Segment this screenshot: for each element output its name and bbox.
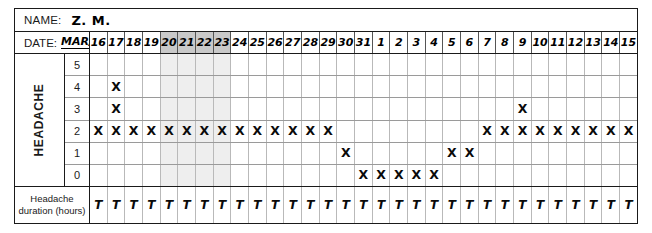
date-header-cell[interactable]: 22	[196, 32, 214, 53]
plot-cell[interactable]	[143, 165, 161, 186]
plot-cell[interactable]	[567, 54, 585, 75]
plot-cell[interactable]	[426, 98, 444, 119]
duration-cell[interactable]: T	[143, 187, 161, 223]
date-header-cell[interactable]: 20	[161, 32, 179, 53]
plot-cell[interactable]	[443, 76, 461, 97]
plot-cell[interactable]	[496, 54, 514, 75]
plot-cell[interactable]	[479, 76, 497, 97]
plot-cell[interactable]	[567, 76, 585, 97]
plot-cell[interactable]	[373, 143, 391, 164]
plot-cell[interactable]	[196, 76, 214, 97]
duration-cell[interactable]: T	[178, 187, 196, 223]
plot-cell[interactable]	[443, 121, 461, 142]
duration-cell[interactable]: T	[585, 187, 603, 223]
plot-cell[interactable]	[161, 143, 179, 164]
plot-cell[interactable]	[337, 98, 355, 119]
plot-cell[interactable]	[602, 165, 620, 186]
duration-cell[interactable]: T	[408, 187, 426, 223]
plot-cell[interactable]	[620, 76, 637, 97]
plot-cell[interactable]	[532, 165, 550, 186]
plot-cell[interactable]	[355, 98, 373, 119]
plot-cell[interactable]	[302, 165, 320, 186]
plot-cell[interactable]: X	[532, 121, 550, 142]
duration-cell[interactable]: T	[214, 187, 232, 223]
plot-cell[interactable]	[585, 76, 603, 97]
plot-cell[interactable]	[178, 76, 196, 97]
date-header-cell[interactable]: 17	[108, 32, 126, 53]
plot-cell[interactable]	[231, 54, 249, 75]
date-header-cell[interactable]: 24	[231, 32, 249, 53]
plot-cell[interactable]	[426, 121, 444, 142]
date-header-cell[interactable]: 21	[178, 32, 196, 53]
plot-cell[interactable]: X	[161, 121, 179, 142]
plot-cell[interactable]	[532, 76, 550, 97]
plot-cell[interactable]	[408, 143, 426, 164]
plot-cell[interactable]	[390, 143, 408, 164]
duration-cell[interactable]: T	[196, 187, 214, 223]
plot-cell[interactable]	[90, 165, 108, 186]
plot-cell[interactable]	[426, 76, 444, 97]
plot-cell[interactable]	[585, 143, 603, 164]
date-header-cell[interactable]: 6	[461, 32, 479, 53]
plot-cell[interactable]	[549, 165, 567, 186]
plot-cell[interactable]	[90, 76, 108, 97]
plot-cell[interactable]	[373, 121, 391, 142]
plot-cell[interactable]	[90, 54, 108, 75]
plot-cell[interactable]	[125, 143, 143, 164]
plot-cell[interactable]	[284, 143, 302, 164]
plot-cell[interactable]: X	[337, 143, 355, 164]
plot-cell[interactable]: X	[108, 98, 126, 119]
plot-cell[interactable]	[90, 143, 108, 164]
plot-cell[interactable]: X	[143, 121, 161, 142]
plot-cell[interactable]	[231, 143, 249, 164]
plot-cell[interactable]: X	[408, 165, 426, 186]
duration-cell[interactable]: T	[479, 187, 497, 223]
plot-cell[interactable]	[496, 143, 514, 164]
plot-cell[interactable]	[214, 165, 232, 186]
date-header-cell[interactable]: 14	[602, 32, 620, 53]
plot-cell[interactable]	[567, 165, 585, 186]
plot-cell[interactable]	[143, 54, 161, 75]
plot-cell[interactable]	[602, 143, 620, 164]
plot-cell[interactable]	[249, 54, 267, 75]
plot-cell[interactable]	[390, 98, 408, 119]
date-header-cell[interactable]: 29	[320, 32, 338, 53]
plot-cell[interactable]	[249, 143, 267, 164]
date-header-cell[interactable]: 28	[302, 32, 320, 53]
date-header-cell[interactable]: 15	[620, 32, 637, 53]
plot-cell[interactable]: X	[214, 121, 232, 142]
plot-cell[interactable]	[461, 98, 479, 119]
plot-cell[interactable]	[549, 143, 567, 164]
plot-cell[interactable]	[620, 165, 637, 186]
date-header-cell[interactable]: 13	[585, 32, 603, 53]
date-header-cell[interactable]: 31	[355, 32, 373, 53]
date-header-cell[interactable]: 23	[214, 32, 232, 53]
plot-cell[interactable]: X	[302, 121, 320, 142]
plot-cell[interactable]	[214, 54, 232, 75]
plot-cell[interactable]	[267, 98, 285, 119]
plot-cell[interactable]	[602, 76, 620, 97]
plot-cell[interactable]: X	[373, 165, 391, 186]
plot-cell[interactable]	[585, 98, 603, 119]
plot-cell[interactable]: X	[585, 121, 603, 142]
plot-cell[interactable]: X	[125, 121, 143, 142]
plot-cell[interactable]	[178, 143, 196, 164]
plot-cell[interactable]	[532, 98, 550, 119]
duration-cell[interactable]: T	[602, 187, 620, 223]
plot-cell[interactable]	[408, 98, 426, 119]
plot-cell[interactable]	[443, 54, 461, 75]
date-header-cell[interactable]: 26	[267, 32, 285, 53]
plot-cell[interactable]: X	[249, 121, 267, 142]
plot-cell[interactable]: X	[108, 121, 126, 142]
duration-cell[interactable]: T	[125, 187, 143, 223]
plot-cell[interactable]	[514, 54, 532, 75]
duration-cell[interactable]: T	[267, 187, 285, 223]
plot-cell[interactable]	[496, 76, 514, 97]
plot-cell[interactable]	[231, 76, 249, 97]
plot-cell[interactable]	[602, 54, 620, 75]
plot-cell[interactable]: X	[284, 121, 302, 142]
date-header-cell[interactable]: 9	[514, 32, 532, 53]
plot-cell[interactable]	[196, 165, 214, 186]
plot-cell[interactable]	[302, 98, 320, 119]
duration-cell[interactable]: T	[249, 187, 267, 223]
